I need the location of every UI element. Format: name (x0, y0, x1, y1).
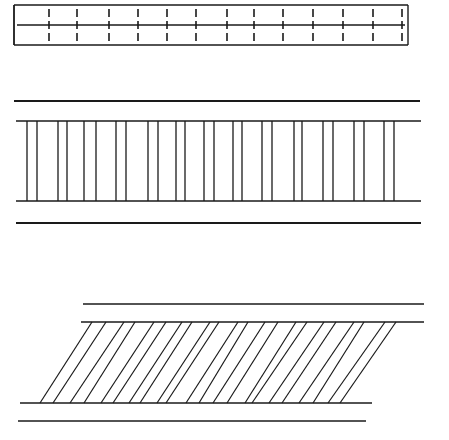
diagonal-bar (70, 322, 124, 403)
diagonal-bar (340, 322, 396, 403)
ruler-strip (14, 5, 408, 45)
diagonal-bar (269, 322, 324, 403)
diagonal-bar (213, 322, 265, 403)
diagonal-bar (299, 322, 354, 403)
diagonal-bar-band (18, 304, 424, 421)
diagonal-bar (186, 322, 238, 403)
vertical-bar-band (14, 101, 421, 223)
diagonal-bar (53, 322, 106, 403)
diagonal-bar (199, 322, 248, 403)
diagonal-bar (252, 322, 307, 403)
diagram-canvas (0, 0, 449, 440)
diagonal-bar (282, 322, 336, 403)
diagonal-bar (113, 322, 166, 403)
diagonal-bar (40, 322, 92, 403)
